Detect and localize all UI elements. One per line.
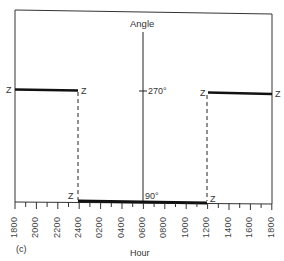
y-axis-title: Angle — [130, 19, 154, 28]
hour-tick-label: 2200 — [53, 217, 62, 238]
z-marker-low-end: Z — [210, 195, 216, 204]
segment-right-high — [208, 93, 272, 95]
hour-tick-label: 0600 — [138, 217, 147, 238]
z-marker-right-start: Z — [200, 89, 206, 98]
frame-top — [15, 10, 272, 14]
panel-label: (c) — [16, 245, 27, 254]
z-marker-right-end: Z — [275, 90, 281, 99]
x-axis-title: Hour — [130, 249, 150, 258]
hour-tick-label: 1800 — [10, 217, 19, 238]
angle-label-270: 270° — [148, 87, 167, 96]
hour-tick-label: 1000 — [181, 217, 190, 238]
hour-tick-label: 2400 — [74, 217, 83, 238]
hour-tick-label: 0200 — [95, 217, 104, 238]
hour-tick-label: 2000 — [31, 217, 40, 238]
segment-left-high — [15, 90, 78, 91]
hour-tick-label: 1400 — [224, 217, 233, 238]
angle-label-90: 90° — [145, 192, 159, 201]
hour-tick-label: 0800 — [159, 217, 168, 238]
z-marker-left-end: Z — [81, 87, 87, 96]
hour-tick-label: 1200 — [202, 217, 211, 238]
segment-middle-low — [78, 201, 207, 203]
hour-tick-label: 1800 — [267, 217, 276, 238]
hour-tick-label: 0400 — [117, 217, 126, 238]
z-marker-left-start: Z — [6, 86, 12, 95]
z-marker-low-start: Z — [68, 192, 74, 201]
hour-tick-label: 1600 — [245, 217, 254, 238]
